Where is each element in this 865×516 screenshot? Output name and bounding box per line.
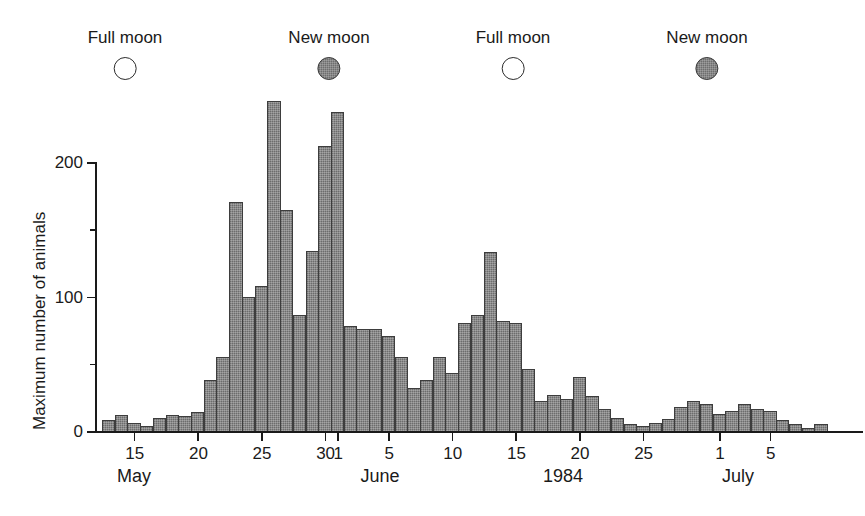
x-tick-label: 20 — [571, 444, 590, 464]
x-axis-period-label: 1984 — [543, 466, 583, 487]
histogram-bar — [229, 202, 242, 431]
histogram-bar — [242, 297, 255, 432]
histogram-bar — [509, 323, 522, 431]
x-tick — [388, 432, 390, 441]
x-tick — [719, 432, 721, 441]
histogram-bar — [662, 419, 675, 431]
histogram-bar — [267, 101, 280, 431]
histogram-bar — [356, 329, 369, 431]
histogram-bar — [318, 146, 331, 431]
x-axis-period-label: May — [117, 466, 151, 487]
histogram-bar — [382, 336, 395, 431]
full-moon-icon — [113, 57, 136, 80]
x-tick-label: 15 — [125, 444, 144, 464]
histogram-bar — [115, 415, 128, 431]
histogram-bar — [522, 369, 535, 431]
y-tick-label: 200 — [37, 153, 83, 173]
histogram-bar — [763, 411, 776, 431]
moon-phase-label: New moon — [666, 28, 747, 48]
x-tick — [643, 432, 645, 441]
histogram-bar — [369, 329, 382, 431]
moon-phase-new-2: New moon — [288, 28, 369, 80]
x-tick — [337, 432, 339, 441]
histogram-bar — [420, 380, 433, 431]
moon-phase-label: Full moon — [88, 28, 163, 48]
histogram-bar — [255, 286, 268, 431]
x-tick — [515, 432, 517, 441]
histogram-bar — [166, 415, 179, 431]
histogram-bar — [814, 424, 827, 431]
histogram-bar — [471, 315, 484, 431]
histogram-bar — [573, 377, 586, 431]
y-axis-label: Maximum number of animals — [30, 212, 50, 430]
histogram-bar — [547, 395, 560, 431]
x-tick-label: 15 — [507, 444, 526, 464]
x-axis-line — [95, 431, 863, 433]
moon-phase-abundance-chart: Full moonNew moonFull moonNew moon Maxim… — [0, 0, 865, 516]
histogram-bar — [598, 409, 611, 431]
x-tick-label: 20 — [189, 444, 208, 464]
x-tick-label: 25 — [634, 444, 653, 464]
histogram-bar — [191, 412, 204, 431]
moon-phase-new-4: New moon — [666, 28, 747, 80]
histogram-bar — [496, 321, 509, 431]
moon-phase-label: Full moon — [476, 28, 551, 48]
histogram-bar — [407, 388, 420, 431]
histogram-bar — [789, 424, 802, 431]
histogram-bar — [433, 357, 446, 431]
histogram-bar — [395, 357, 408, 431]
histogram-bar — [445, 373, 458, 431]
histogram-bar — [153, 418, 166, 431]
full-moon-icon — [501, 57, 524, 80]
histogram-bar — [102, 420, 115, 431]
histogram-bar — [534, 401, 547, 431]
histogram-bar — [458, 323, 471, 431]
histogram-bar — [204, 380, 217, 431]
x-tick — [452, 432, 454, 441]
histogram-bar — [624, 424, 637, 431]
histogram-bar — [725, 411, 738, 431]
histogram-bar — [344, 326, 357, 431]
x-tick-label: 10 — [443, 444, 462, 464]
x-tick — [579, 432, 581, 441]
y-tick-major — [87, 431, 96, 433]
histogram-bar — [636, 426, 649, 431]
histogram-bar — [331, 112, 344, 431]
x-tick-label: 1 — [334, 444, 343, 464]
histogram-bar — [484, 252, 497, 431]
y-tick-label: 100 — [37, 288, 83, 308]
x-axis-period-label: June — [360, 466, 399, 487]
x-tick — [197, 432, 199, 441]
histogram-bar — [713, 414, 726, 431]
histogram-bar — [127, 423, 140, 431]
plot-area: 0100200 15202530151015202515 — [95, 95, 865, 431]
histogram-bar — [674, 407, 687, 431]
histogram-bar — [216, 357, 229, 431]
histogram-bar — [560, 399, 573, 431]
histogram-bar — [776, 420, 789, 431]
x-tick — [325, 432, 327, 441]
histogram-bar — [293, 315, 306, 431]
histogram-bar — [585, 396, 598, 431]
new-moon-icon — [317, 57, 340, 80]
moon-phase-full-3: Full moon — [476, 28, 551, 80]
histogram-bar — [280, 210, 293, 431]
x-tick-label: 5 — [384, 444, 393, 464]
new-moon-icon — [695, 57, 718, 80]
histogram-bar — [611, 418, 624, 431]
x-tick-label: 25 — [253, 444, 272, 464]
histogram-bar — [738, 404, 751, 431]
histogram-bars — [95, 95, 865, 431]
histogram-bar — [687, 401, 700, 431]
histogram-bar — [178, 416, 191, 431]
histogram-bar — [700, 404, 713, 431]
x-tick-label: 5 — [766, 444, 775, 464]
y-tick-label: 0 — [37, 422, 83, 442]
histogram-bar — [649, 423, 662, 431]
histogram-bar — [751, 409, 764, 431]
x-tick-label: 30 — [316, 444, 335, 464]
x-tick — [134, 432, 136, 441]
x-tick-label: 1 — [715, 444, 724, 464]
histogram-bar — [140, 426, 153, 431]
histogram-bar — [306, 251, 319, 431]
